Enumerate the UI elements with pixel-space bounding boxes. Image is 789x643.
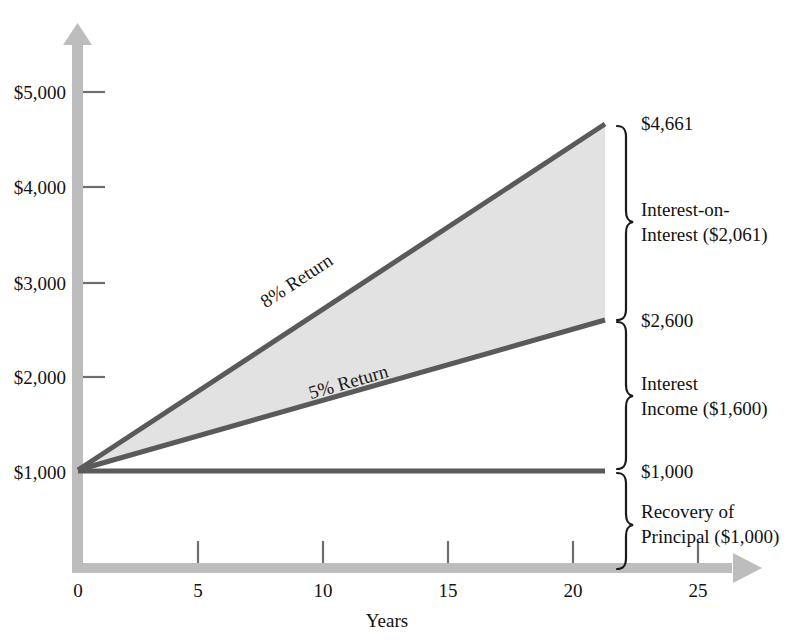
- x-tick-label-20: 20: [564, 580, 583, 601]
- bracket-label-interest-on-interest-line1: Interest-on-: [641, 199, 730, 220]
- series-label-8-percent: 8% Return: [256, 249, 336, 312]
- bracket-labels: Interest-on- Interest ($2,061) Interest …: [641, 199, 779, 548]
- x-tick-label-0: 0: [73, 580, 83, 601]
- y-tick-marks: [83, 92, 105, 377]
- brace-group: [617, 126, 633, 569]
- value-label-bottom: $1,000: [641, 461, 693, 482]
- x-axis-line: [72, 563, 732, 573]
- y-tick-label-2000: $2,000: [14, 367, 66, 388]
- x-axis-title: Years: [366, 610, 408, 631]
- x-axis-arrowhead: [733, 553, 762, 583]
- y-tick-label-5000: $5,000: [14, 82, 66, 103]
- y-tick-labels: $5,000 $4,000 $3,000 $2,000 $1,000: [14, 82, 66, 483]
- brace-interest-on-interest: [617, 126, 633, 320]
- y-tick-label-3000: $3,000: [14, 273, 66, 294]
- brace-recovery-of-principal: [617, 473, 633, 569]
- bracket-label-interest-income-line2: Income ($1,600): [641, 398, 768, 420]
- y-axis-arrowhead: [63, 23, 92, 45]
- x-tick-label-5: 5: [193, 580, 203, 601]
- x-tick-label-15: 15: [439, 580, 458, 601]
- y-axis-line: [72, 38, 83, 570]
- value-label-middle: $2,600: [641, 310, 693, 331]
- value-labels: $4,661 $2,600 $1,000: [641, 113, 693, 482]
- investment-growth-chart: $5,000 $4,000 $3,000 $2,000 $1,000 0 5 1…: [0, 0, 789, 643]
- bracket-label-recovery-of-principal-line1: Recovery of: [641, 501, 735, 522]
- bracket-label-recovery-of-principal-line2: Principal ($1,000): [641, 526, 779, 548]
- bracket-label-interest-on-interest-line2: Interest ($2,061): [641, 224, 768, 246]
- chart-figure: $5,000 $4,000 $3,000 $2,000 $1,000 0 5 1…: [0, 0, 789, 643]
- x-tick-labels: 0 5 10 15 20 25: [73, 580, 707, 601]
- brace-interest-income: [617, 322, 633, 469]
- bracket-label-interest-income-line1: Interest: [641, 373, 699, 394]
- x-tick-label-10: 10: [314, 580, 333, 601]
- x-tick-label-25: 25: [689, 580, 708, 601]
- y-tick-label-1000: $1,000: [14, 462, 66, 483]
- y-tick-label-4000: $4,000: [14, 177, 66, 198]
- value-label-top: $4,661: [641, 113, 693, 134]
- x-tick-marks: [198, 541, 698, 563]
